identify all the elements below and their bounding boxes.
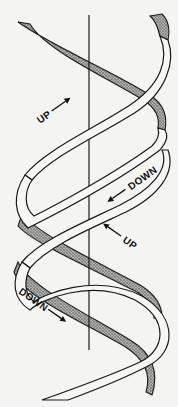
svg-text:UP: UP [35, 108, 53, 125]
arrowhead-left-icon [106, 196, 114, 204]
arrow-right-icon [52, 101, 66, 111]
arrowhead-right-icon [64, 95, 72, 103]
arrowhead-right-icon [60, 316, 68, 324]
svg-text:UP: UP [121, 234, 139, 251]
label-up-top: UP [35, 94, 74, 126]
front-strand [15, 36, 171, 400]
arrow-left-icon [112, 189, 125, 198]
label-up-lower: UP [100, 219, 140, 251]
arrow-left-icon [108, 227, 121, 236]
double-helix-diagram: UP DOWN UP DOWN [0, 0, 178, 407]
back-strand [14, 14, 169, 395]
